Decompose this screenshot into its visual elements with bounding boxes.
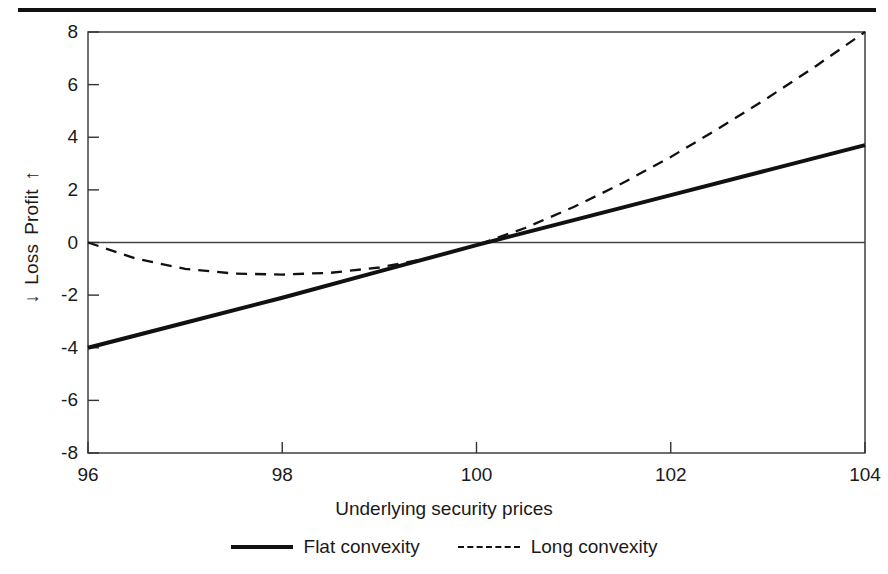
chart-legend: Flat convexity Long convexity	[0, 537, 888, 556]
x-tick-label: 100	[447, 465, 507, 484]
plot-area	[0, 0, 888, 574]
y-tick-label: -6	[36, 390, 78, 409]
legend-item-flat-convexity[interactable]: Flat convexity	[231, 537, 420, 556]
x-tick-label: 104	[835, 465, 888, 484]
y-tick-label: -2	[36, 285, 78, 304]
series-line-flat-convexity	[88, 145, 865, 348]
x-tick-label: 102	[641, 465, 701, 484]
y-tick-label: 8	[36, 22, 78, 41]
legend-label-flat-convexity: Flat convexity	[304, 537, 420, 556]
x-tick-label: 96	[58, 465, 118, 484]
legend-swatch-solid-icon	[231, 545, 293, 549]
legend-item-long-convexity[interactable]: Long convexity	[458, 537, 658, 556]
x-tick-label: 98	[252, 465, 312, 484]
y-tick-label: 4	[36, 127, 78, 146]
legend-label-long-convexity: Long convexity	[531, 537, 658, 556]
x-axis-ticks	[88, 442, 865, 453]
legend-swatch-dashed-icon	[458, 546, 520, 548]
y-tick-label: 0	[36, 233, 78, 252]
series-line-long-convexity	[88, 32, 865, 275]
chart-figure: ↓ Loss Profit ↑ 86420-2-4-6-8 9698100102…	[0, 0, 888, 574]
y-tick-label: -8	[36, 443, 78, 462]
y-tick-label: 2	[36, 180, 78, 199]
x-axis-title: Underlying security prices	[0, 498, 888, 520]
y-tick-label: 6	[36, 75, 78, 94]
y-tick-label: -4	[36, 338, 78, 357]
